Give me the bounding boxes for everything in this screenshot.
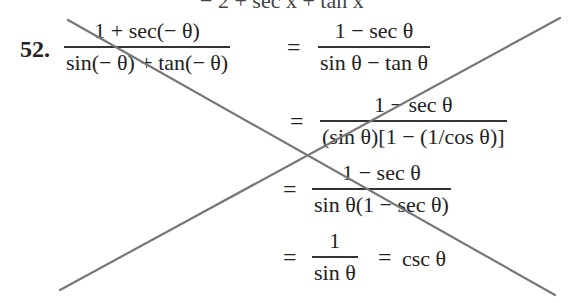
strike-through-x: [0, 0, 575, 303]
